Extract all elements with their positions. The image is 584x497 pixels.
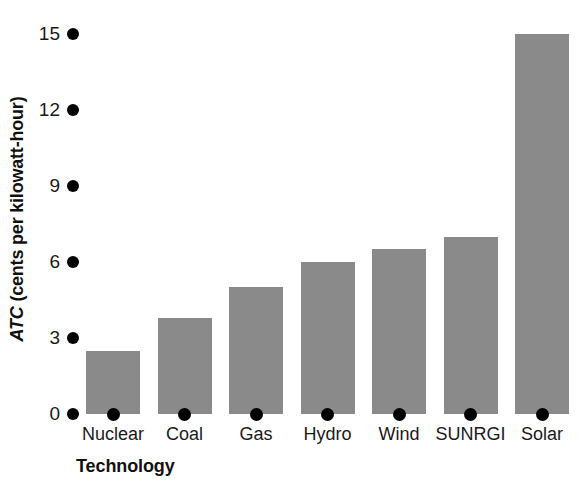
bar [158,318,212,414]
x-tick-marker-dot [393,408,406,421]
bar [86,351,140,414]
x-tick-marker-dot [536,408,549,421]
plot-area [0,0,584,497]
x-tick-marker-dot [178,408,191,421]
x-tick-marker-dot [107,408,120,421]
x-tick-marker-dot [464,408,477,421]
x-axis-title: Technology [76,456,175,477]
x-tick-marker-dot [321,408,334,421]
bar-chart: ATC (cents per kilowatt-hour) 03691215 N… [0,0,584,497]
x-tick-label: Solar [497,425,584,445]
x-tick-marker-dot [250,408,263,421]
bar [301,262,355,414]
bar [372,249,426,414]
bar [229,287,283,414]
bar [515,34,569,414]
bar [444,237,498,414]
